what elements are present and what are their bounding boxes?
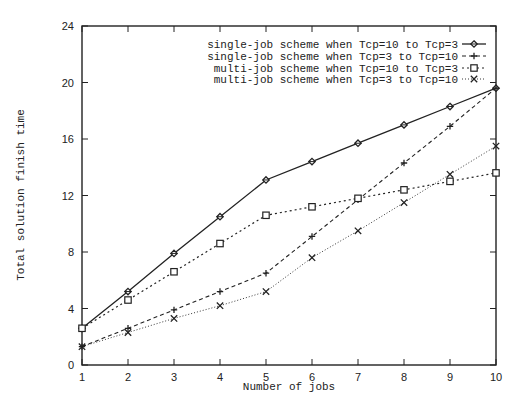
x-tick-label: 1 (79, 371, 85, 383)
square-marker (493, 170, 499, 176)
legend-item: single-job scheme when Tcp=3 to Tcp=10 (207, 51, 486, 63)
x-tick-label: 3 (171, 371, 177, 383)
cross-marker (355, 228, 361, 234)
square-marker (263, 212, 269, 218)
series-2 (79, 85, 499, 350)
x-tick-label: 9 (447, 371, 453, 383)
series-line (82, 146, 496, 347)
cross-marker (263, 288, 269, 294)
square-marker (125, 297, 131, 303)
series-1 (79, 85, 499, 332)
series-4 (79, 143, 499, 350)
square-marker (79, 325, 85, 331)
x-tick-label: 2 (125, 371, 131, 383)
legend: single-job scheme when Tcp=10 to Tcp=3si… (207, 39, 486, 86)
y-tick-label: 8 (68, 246, 74, 258)
x-tick-label: 7 (355, 371, 361, 383)
y-tick-label: 24 (62, 20, 74, 32)
cross-marker (447, 171, 453, 177)
square-marker (355, 195, 361, 201)
line-chart: 04812162024 12345678910 single-job schem… (0, 0, 520, 414)
square-marker (471, 65, 477, 71)
cross-marker (401, 199, 407, 205)
x-tick-label: 10 (490, 371, 502, 383)
y-tick-label: 20 (62, 77, 74, 89)
plus-marker (471, 53, 477, 59)
series-line (82, 173, 496, 328)
series-3 (79, 170, 499, 332)
series-layer (79, 85, 499, 350)
x-tick-label: 4 (217, 371, 223, 383)
legend-item: multi-job scheme when Tcp=3 to Tcp=10 (214, 74, 486, 86)
plus-marker (217, 288, 223, 294)
legend-item: single-job scheme when Tcp=10 to Tcp=3 (207, 39, 486, 51)
y-tick-label: 0 (68, 359, 74, 371)
square-marker (401, 187, 407, 193)
y-tick-label: 16 (62, 133, 74, 145)
plus-marker (171, 307, 177, 313)
y-tick-label: 12 (62, 190, 74, 202)
cross-marker (171, 315, 177, 321)
series-line (82, 88, 496, 347)
plus-marker (263, 270, 269, 276)
cross-marker (217, 302, 223, 308)
legend-label: single-job scheme when Tcp=10 to Tcp=3 (207, 39, 458, 51)
square-marker (309, 204, 315, 210)
square-marker (171, 269, 177, 275)
x-axis-label: Number of jobs (243, 381, 335, 393)
y-tick-label: 4 (68, 303, 74, 315)
square-marker (447, 178, 453, 184)
x-tick-label: 8 (401, 371, 407, 383)
cross-marker (309, 254, 315, 260)
square-marker (217, 240, 223, 246)
series-line (82, 88, 496, 328)
y-axis-label: Total solution finish time (15, 109, 27, 281)
legend-label: multi-job scheme when Tcp=3 to Tcp=10 (214, 74, 458, 86)
legend-label: single-job scheme when Tcp=3 to Tcp=10 (207, 51, 458, 63)
